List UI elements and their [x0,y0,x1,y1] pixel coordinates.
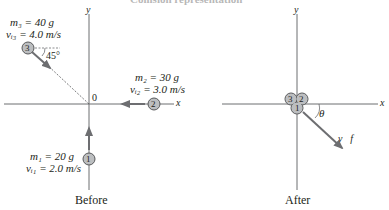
theta-label: θ [319,107,324,119]
after-y-label: y [294,4,298,15]
ball2-velocity-label: vᵢ₂ = 3.0 m/s [130,83,185,95]
angle-45-label: 45° [46,50,60,62]
after-caption: After [285,193,310,208]
ball3-mass-label: m₃ = 40 g [10,16,54,28]
ball1-velocity-label: vᵢ₁ = 2.0 m/s [26,162,81,174]
origin-label: 0 [92,92,97,104]
before-y-label: y [86,4,90,15]
ball1-mass-label: m₁ = 20 g [30,150,74,162]
ball2-number: 2 [151,98,156,110]
collision-diagram: Collision representation [0,0,389,210]
ball3-velocity-label: vᵢ₃ = 4.0 m/s [6,28,61,40]
ball1-number: 1 [86,153,91,165]
after-ball3-number: 3 [288,93,293,105]
before-caption: Before [75,193,108,208]
after-ball2-number: 2 [299,93,304,105]
angle-arc-45 [42,48,45,56]
after-x-label: x [380,97,384,108]
ball3-trajectory [44,62,89,104]
ball2-mass-label: m₂ = 30 g [135,71,179,83]
ball3-number: 3 [25,42,30,54]
final-velocity-label: v⃗f [338,133,353,145]
after-ball1-number: 1 [295,102,300,114]
before-x-label: x [176,97,180,108]
